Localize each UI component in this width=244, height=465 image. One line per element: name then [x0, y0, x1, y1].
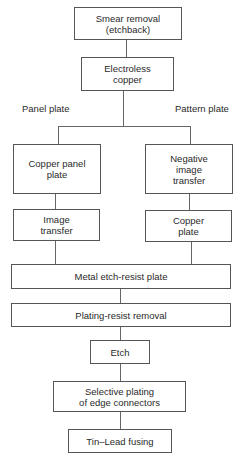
edge-branch-to-negative-image: [190, 126, 191, 144]
edge-selective-to-tin-lead: [120, 412, 121, 429]
edge-copper-panel-to-image-transfer: [55, 194, 56, 209]
node-copper-plate: Copper plate: [145, 210, 232, 242]
edge-metal-etch-to-plating-resist: [120, 289, 121, 303]
branch-label-pattern-plate: Pattern plate: [175, 103, 229, 114]
edge-image-transfer-to-metal-etch: [55, 241, 56, 264]
edge-branch-to-copper-panel: [58, 126, 59, 144]
node-tin-lead-fusing: Tin–Lead fusing: [68, 429, 172, 453]
node-electroless-copper: Electroless copper: [81, 57, 174, 91]
node-metal-etch-resist-plate: Metal etch-resist plate: [11, 264, 231, 289]
edge-branch-horizontal: [58, 126, 190, 127]
node-smear-removal: Smear removal (etchback): [74, 7, 182, 40]
node-copper-panel-plate: Copper panel plate: [13, 144, 101, 194]
node-image-transfer: Image transfer: [13, 209, 100, 241]
node-selective-plating: Selective plating of edge connectors: [53, 381, 186, 412]
edge-negative-to-copper-plate: [189, 194, 190, 210]
edge-copper-plate-to-metal-etch: [191, 242, 192, 264]
node-negative-image-transfer: Negative image transfer: [145, 144, 233, 194]
edge-plating-resist-to-etch: [120, 327, 121, 340]
edge-smear-to-electroless: [126, 40, 127, 57]
node-etch: Etch: [90, 340, 150, 364]
branch-label-panel-plate: Panel plate: [22, 103, 70, 114]
edge-electroless-to-branch: [123, 91, 124, 127]
node-plating-resist-removal: Plating-resist removal: [11, 303, 231, 327]
edge-etch-to-selective: [120, 364, 121, 381]
